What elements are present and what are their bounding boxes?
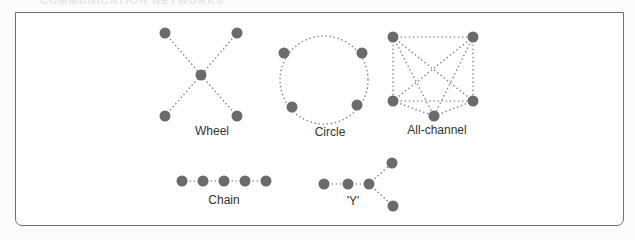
network-node [287, 102, 298, 113]
chain-network: Chain [177, 176, 272, 208]
network-edge [434, 37, 473, 116]
all-channel-network: All-channel [388, 32, 479, 138]
y-network: 'Y' [319, 158, 399, 212]
network-node [232, 28, 243, 39]
network-node [352, 100, 363, 111]
network-node [219, 176, 230, 187]
network-edge [393, 37, 434, 116]
circle-label: Circle [315, 125, 346, 139]
network-edge [393, 101, 434, 116]
network-node [388, 201, 399, 212]
network-node [177, 176, 188, 187]
network-node [160, 28, 171, 39]
network-node [240, 176, 251, 187]
network-node [388, 32, 399, 43]
network-node [160, 111, 171, 122]
network-node [198, 176, 209, 187]
network-node [429, 111, 440, 122]
network-edge [165, 75, 201, 116]
network-edge [201, 33, 237, 75]
network-node [468, 96, 479, 107]
network-node [261, 176, 272, 187]
network-edge [165, 33, 201, 75]
network-diagrams: Wheel Circle All-channel Chain 'Y' [0, 0, 635, 240]
network-node [343, 179, 354, 190]
network-node [364, 179, 375, 190]
network-node [357, 48, 368, 59]
network-node [468, 32, 479, 43]
network-node [196, 70, 207, 81]
network-edge [201, 75, 237, 116]
network-node [387, 158, 398, 169]
network-node [388, 96, 399, 107]
chain-label: Chain [208, 193, 239, 207]
wheel-network: Wheel [160, 28, 243, 139]
network-node [319, 179, 330, 190]
circle-network: Circle [279, 36, 369, 139]
all-channel-label: All-channel [407, 123, 466, 137]
y-label: 'Y' [347, 194, 360, 208]
network-node [232, 111, 243, 122]
wheel-label: Wheel [195, 124, 229, 138]
network-node [279, 48, 290, 59]
